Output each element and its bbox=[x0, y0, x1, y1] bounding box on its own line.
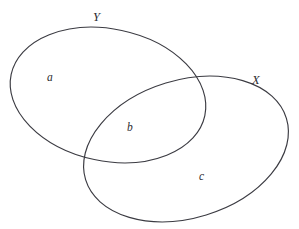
venn-diagram: Y X a b c bbox=[0, 0, 299, 229]
region-label-a: a bbox=[47, 72, 53, 84]
set-label-y: Y bbox=[93, 11, 100, 24]
region-label-c: c bbox=[199, 171, 204, 183]
region-label-b: b bbox=[127, 122, 133, 134]
set-label-x: X bbox=[252, 74, 260, 87]
venn-diagram-canvas bbox=[0, 0, 299, 229]
set-ellipse-y bbox=[0, 10, 219, 180]
set-ellipse-x bbox=[65, 52, 299, 229]
